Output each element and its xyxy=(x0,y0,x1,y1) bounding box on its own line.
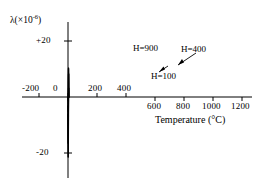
series-label-h400-text: H=400 xyxy=(181,44,206,54)
series-label-h100-text: H=100 xyxy=(151,71,176,81)
x-tick-label-600: 600 xyxy=(147,102,161,111)
series-label-h400: H=400 xyxy=(181,45,206,54)
curve-h100 xyxy=(68,88,69,111)
x-tick-label-800: 800 xyxy=(176,102,190,111)
plot-area xyxy=(0,0,260,191)
x-tick-label-minus200: -200 xyxy=(22,84,39,93)
series-label-h100: H=100 xyxy=(151,72,176,81)
leader-h400 xyxy=(178,53,196,65)
y-axis-title: λ(×10-6) xyxy=(10,14,41,26)
curves-group xyxy=(68,68,69,157)
x-tick-label-400: 400 xyxy=(117,84,131,93)
y-tick-label-plus20: +20 xyxy=(36,36,51,45)
magnetostriction-chart: λ(×10-6) +20 -20 -200 0 200 400 600 800 … xyxy=(0,0,260,191)
x-tick-label-0: 0 xyxy=(53,84,58,93)
y-axis-close-paren: ) xyxy=(38,15,41,25)
y-tick-label-minus20: -20 xyxy=(36,148,49,157)
series-label-h900-text: H=900 xyxy=(133,43,158,53)
x-tick-label-1000: 1000 xyxy=(202,102,221,111)
x-tick-label-1200: 1200 xyxy=(231,102,250,111)
y-axis-factor: (×10 xyxy=(15,15,33,25)
x-axis-title: Temperature (°C) xyxy=(155,115,225,125)
series-label-h900: H=900 xyxy=(133,44,158,53)
x-tick-label-200: 200 xyxy=(88,84,102,93)
